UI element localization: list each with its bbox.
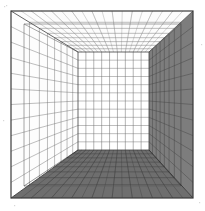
scan-speck-3 (199, 202, 200, 203)
scan-speck-4 (14, 205, 15, 206)
scan-speck-5 (3, 120, 4, 121)
scan-speck-0 (4, 6, 5, 7)
perspective-room-drawing (0, 0, 205, 211)
figure-canvas (0, 0, 205, 211)
scan-speck-1 (6, 5, 7, 6)
scan-speck-2 (201, 44, 202, 45)
